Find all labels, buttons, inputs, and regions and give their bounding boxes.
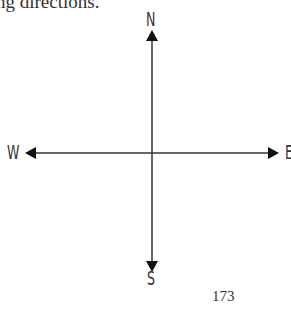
west-label: W <box>7 142 19 162</box>
south-label: S <box>147 268 155 288</box>
page-number: 173 <box>212 288 235 305</box>
north-arrowhead-icon <box>146 30 158 41</box>
east-arrowhead-icon <box>268 147 279 159</box>
north-label: N <box>146 9 155 29</box>
west-arrowhead-icon <box>25 147 36 159</box>
compass-diagram <box>0 0 291 315</box>
east-label: E <box>285 142 291 162</box>
